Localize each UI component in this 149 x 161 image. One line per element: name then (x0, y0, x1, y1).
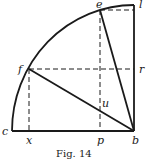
label-p: p (97, 134, 104, 147)
label-f: f (17, 63, 24, 76)
label-e: e (96, 0, 103, 11)
label-u: u (102, 97, 109, 110)
label-c: c (2, 125, 8, 138)
label-b: b (132, 134, 139, 147)
label-x: x (26, 134, 33, 147)
segment-eb (100, 10, 134, 131)
segment-fb (29, 69, 134, 131)
label-l: l (139, 0, 143, 11)
figure-caption: Fig. 14 (56, 148, 92, 159)
label-r: r (139, 63, 145, 76)
geometry-figure: e l f r u c x p b Fig. 14 (0, 0, 149, 161)
